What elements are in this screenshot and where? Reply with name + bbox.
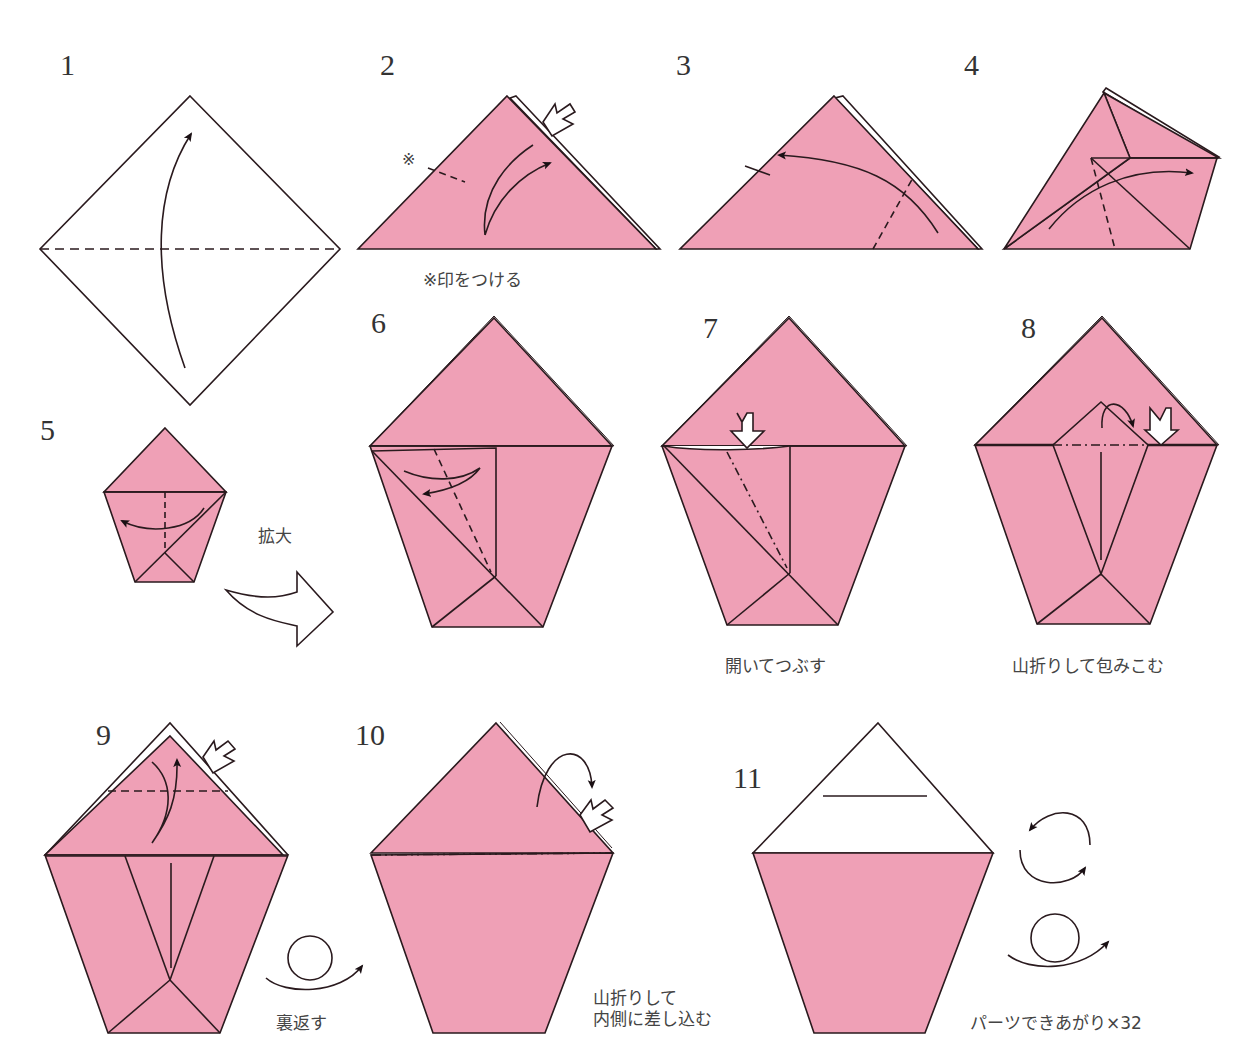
step-number-4: 4 — [964, 50, 979, 80]
step-11-diagram — [753, 723, 1108, 1033]
step-number-8: 8 — [1021, 313, 1036, 343]
step-8-caption: 山折りして包みこむ — [1012, 656, 1164, 677]
step-number-7: 7 — [703, 313, 718, 343]
step-1-diagram — [40, 96, 340, 405]
step-10-diagram — [371, 722, 613, 1033]
step-7-diagram — [662, 316, 907, 625]
step-number-2: 2 — [380, 50, 395, 80]
enlarge-arrow-icon — [226, 572, 333, 646]
step-number-6: 6 — [371, 308, 386, 338]
step-number-9: 9 — [96, 720, 111, 750]
step-2-caption: ※印をつける — [423, 270, 522, 291]
step-5-diagram — [104, 428, 333, 646]
step-9-diagram — [45, 723, 362, 1033]
step-2-diagram — [358, 96, 660, 249]
step-3-diagram — [680, 96, 982, 249]
step-11-caption: パーツできあがり×32 — [970, 1013, 1142, 1034]
step-number-5: 5 — [40, 415, 55, 445]
step-4-diagram — [1004, 88, 1219, 249]
step-8-diagram — [975, 316, 1219, 624]
step-number-10: 10 — [355, 720, 385, 750]
step-10-caption: 山折りして 内側に差し込む — [593, 988, 712, 1031]
flip-over-icon — [266, 936, 362, 990]
enlarge-label: 拡大 — [258, 526, 292, 547]
rotate-icon — [1020, 813, 1090, 883]
step-number-11: 11 — [733, 763, 762, 793]
step-6-diagram — [370, 316, 614, 627]
flip-over-icon — [1008, 914, 1108, 966]
flip-over-label: 裏返す — [276, 1013, 327, 1034]
step-number-1: 1 — [60, 50, 75, 80]
step-7-caption: 開いてつぶす — [725, 656, 826, 677]
mark-symbol: ※ — [402, 150, 415, 170]
step-number-3: 3 — [676, 50, 691, 80]
origami-diagram — [0, 0, 1251, 1051]
